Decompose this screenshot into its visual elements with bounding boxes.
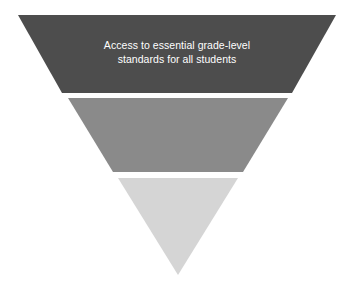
funnel-band-1[interactable] xyxy=(18,15,336,93)
funnel-shape xyxy=(0,0,354,296)
funnel-diagram: Access to essential grade-level standard… xyxy=(0,0,354,296)
